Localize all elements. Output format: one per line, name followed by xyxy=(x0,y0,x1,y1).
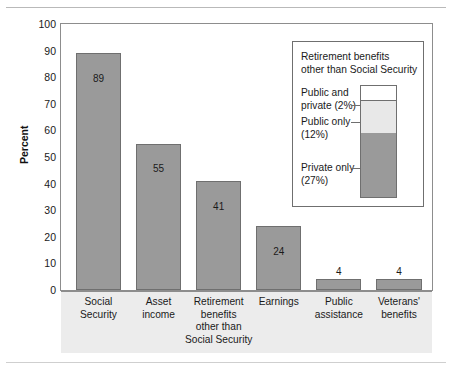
y-axis-tick: 80 xyxy=(44,71,56,83)
bar-value-label: 4 xyxy=(316,266,361,277)
category-label-line: other than xyxy=(177,321,259,334)
y-axis-tick: 30 xyxy=(44,204,56,216)
legend-title-line: other than Social Security xyxy=(301,64,421,77)
bar-social-security[interactable] xyxy=(76,53,121,290)
category-label-band: Social Security Asset income Retirement … xyxy=(61,291,432,353)
y-axis-tick: 100 xyxy=(38,18,56,30)
figure-container: Percent 100 90 80 70 60 50 40 30 20 10 0… xyxy=(0,0,452,370)
top-divider-rule xyxy=(6,7,446,8)
y-axis-tick: 70 xyxy=(44,98,56,110)
category-label-line: assistance xyxy=(303,309,374,322)
category-label-line: Social xyxy=(65,296,133,309)
y-axis-tick: 40 xyxy=(44,178,56,190)
legend-segment-private-only xyxy=(361,133,396,197)
y-axis: Percent 100 90 80 70 60 50 40 30 20 10 0 xyxy=(24,16,60,298)
bottom-divider-rule xyxy=(6,362,446,363)
category-label-line: Veterans' xyxy=(365,296,433,309)
y-axis-title: Percent xyxy=(18,125,30,164)
legend-title-line: Retirement benefits xyxy=(301,51,421,64)
bar-veterans-benefits[interactable] xyxy=(376,279,421,290)
bar-retirement-benefits[interactable] xyxy=(196,181,241,290)
bar-value-label: 4 xyxy=(376,266,421,277)
y-axis-tick: 50 xyxy=(44,151,56,163)
bar-group: 55 xyxy=(136,24,181,290)
legend-stacked-bar xyxy=(360,85,397,198)
y-axis-tick: 20 xyxy=(44,231,56,243)
category-label-line: benefits xyxy=(177,309,259,322)
bar-group: 41 xyxy=(196,24,241,290)
bar-public-assistance[interactable] xyxy=(316,279,361,290)
category-label-line: Social Security xyxy=(177,334,259,347)
category-label-line: Security xyxy=(65,309,133,322)
legend-segment-public-only xyxy=(361,101,396,134)
y-axis-tick: 10 xyxy=(44,257,56,269)
bar-earnings[interactable] xyxy=(256,226,301,290)
bar-value-label: 24 xyxy=(256,246,301,257)
category-label-veterans-benefits: Veterans' benefits xyxy=(365,296,433,321)
bar-value-label: 89 xyxy=(76,73,121,84)
y-axis-tick: 0 xyxy=(50,284,56,296)
y-axis-tick: 60 xyxy=(44,124,56,136)
y-axis-tick: 90 xyxy=(44,45,56,57)
category-label-public-assistance: Public assistance xyxy=(303,296,374,321)
legend-title: Retirement benefits other than Social Se… xyxy=(301,51,421,76)
legend-inset-panel: Retirement benefits other than Social Se… xyxy=(292,41,424,207)
category-label-line: benefits xyxy=(365,309,433,322)
category-label-social-security: Social Security xyxy=(65,296,133,321)
bar-value-label: 41 xyxy=(196,201,241,212)
category-label-line: Public xyxy=(303,296,374,309)
legend-segment-public-and-private xyxy=(361,86,396,101)
bar-value-label: 55 xyxy=(136,163,181,174)
bar-group: 89 xyxy=(76,24,121,290)
